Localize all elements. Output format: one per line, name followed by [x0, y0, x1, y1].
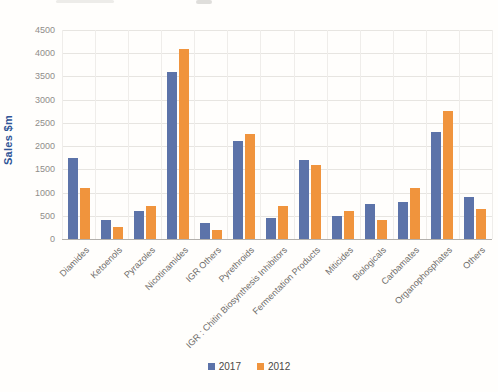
bar-2012-others: [476, 209, 486, 239]
gridline-y-4500: [62, 30, 492, 31]
bar-2017-others: [464, 197, 474, 239]
gridline-y-1500: [62, 169, 492, 170]
bar-2017-diamides: [68, 158, 78, 239]
bar-2017-biologicals: [365, 204, 375, 239]
y-tick-4500: 4500: [0, 26, 55, 35]
bar-2017-igr-chitin-biosynthesis-inhibitors: [266, 218, 276, 239]
gridline-y-3500: [62, 76, 492, 77]
bar-2012-nicotinamides: [179, 49, 189, 239]
gridline-x-5: [227, 30, 228, 239]
y-tick-2500: 2500: [0, 119, 55, 128]
legend-swatch-2012: [257, 363, 264, 370]
gridline-y-2000: [62, 146, 492, 147]
bar-2017-organophosphates: [431, 132, 441, 239]
y-tick-500: 500: [0, 212, 55, 221]
legend-item-2012: 2012: [257, 361, 290, 372]
bar-2012-diamides: [80, 188, 90, 239]
bar-2017-fermentation-products: [299, 160, 309, 239]
gridline-x-7: [294, 30, 295, 239]
gridline-x-3: [161, 30, 162, 239]
bar-2017-pyrazoles: [134, 211, 144, 239]
gridline-y-4000: [62, 53, 492, 54]
legend-label-2017: 2017: [219, 361, 241, 372]
bar-2012-fermentation-products: [311, 165, 321, 239]
gridline-x-12: [459, 30, 460, 239]
bar-2017-igr-others: [200, 223, 210, 239]
gridline-x-2: [128, 30, 129, 239]
y-tick-1500: 1500: [0, 165, 55, 174]
legend: 20172012: [0, 361, 498, 372]
legend-item-2017: 2017: [208, 361, 241, 372]
y-tick-3500: 3500: [0, 72, 55, 81]
bar-2017-pyrethroids: [233, 141, 243, 239]
gridline-x-10: [393, 30, 394, 239]
chart-page: Sales $m 0500100015002000250030003500400…: [0, 0, 498, 392]
gridline-y-1000: [62, 193, 492, 194]
bar-2012-ketoenols: [113, 227, 123, 239]
gridline-y-2500: [62, 123, 492, 124]
x-axis-line: [62, 239, 492, 240]
bar-2012-igr-chitin-biosynthesis-inhibitors: [278, 206, 288, 239]
gridline-x-6: [260, 30, 261, 239]
cropped-text-artifact: [56, 0, 114, 3]
gridline-x-11: [426, 30, 427, 239]
bar-2012-igr-others: [212, 230, 222, 239]
bar-2012-pyrazoles: [146, 206, 156, 239]
cropped-text-artifact: [196, 0, 212, 4]
gridline-x-8: [327, 30, 328, 239]
x-label-diamides: Diamides: [0, 245, 91, 358]
bar-2012-organophosphates: [443, 111, 453, 239]
legend-label-2012: 2012: [268, 361, 290, 372]
y-tick-1000: 1000: [0, 189, 55, 198]
gridline-x-4: [194, 30, 195, 239]
bar-2012-miticides: [344, 211, 354, 239]
gridline-x-1: [95, 30, 96, 239]
y-tick-2000: 2000: [0, 142, 55, 151]
y-tick-0: 0: [0, 235, 55, 244]
y-tick-4000: 4000: [0, 49, 55, 58]
gridline-y-500: [62, 216, 492, 217]
bar-2012-biologicals: [377, 220, 387, 239]
gridline-x-9: [360, 30, 361, 239]
bar-2017-miticides: [332, 216, 342, 239]
bar-2017-carbamates: [398, 202, 408, 239]
y-tick-3000: 3000: [0, 96, 55, 105]
bar-2017-ketoenols: [101, 220, 111, 239]
gridline-y-3000: [62, 100, 492, 101]
gridline-x-0: [62, 30, 63, 239]
gridline-x-13: [492, 30, 493, 239]
bar-2012-pyrethroids: [245, 134, 255, 239]
plot-area: [62, 30, 492, 239]
bar-2017-nicotinamides: [167, 72, 177, 239]
bar-2012-carbamates: [410, 188, 420, 239]
legend-swatch-2017: [208, 363, 215, 370]
